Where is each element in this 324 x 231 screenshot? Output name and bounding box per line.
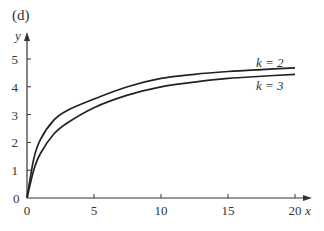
x-tick-label: 20 bbox=[289, 203, 302, 218]
series-line-k3 bbox=[27, 74, 295, 198]
x-tick-label: 0 bbox=[24, 203, 31, 218]
y-axis-arrow-icon bbox=[24, 32, 30, 41]
series-label-k2: k = 2 bbox=[256, 55, 284, 70]
x-tick-label: 5 bbox=[91, 203, 98, 218]
y-tick-label: 1 bbox=[12, 163, 19, 178]
y-tick-label: 5 bbox=[12, 52, 19, 67]
series-label-k3: k = 3 bbox=[256, 78, 284, 93]
chart: 0510152012345 (d) y x 0 k = 2 k = 3 bbox=[0, 0, 324, 231]
y-tick-label: 4 bbox=[12, 80, 19, 95]
x-axis-arrow-icon bbox=[303, 195, 312, 201]
y-tick-label: 3 bbox=[12, 108, 19, 123]
curves bbox=[27, 68, 295, 198]
origin-y-label: 0 bbox=[13, 191, 20, 206]
x-tick-label: 15 bbox=[222, 203, 235, 218]
x-tick-label: 10 bbox=[155, 203, 168, 218]
y-tick-label: 2 bbox=[12, 135, 19, 150]
panel-label: (d) bbox=[12, 7, 30, 24]
y-axis-label: y bbox=[13, 28, 21, 43]
x-axis-label: x bbox=[304, 203, 311, 218]
